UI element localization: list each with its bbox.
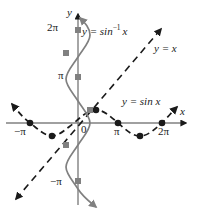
x-axis-label: x [180,106,185,117]
arcsin-curve-label: y = sin−1x [82,24,128,37]
arcsin-point [75,27,81,33]
y-axis-label: y [67,7,72,18]
y-tick-label-neg-pi: −π [50,176,62,187]
arcsin-label-prefix: y = sin [82,25,113,37]
arcsin-point [63,142,69,148]
arcsin-point [87,107,93,113]
x-tick-label-pi: π [114,126,120,137]
arcsin-point [75,74,81,80]
arcsin-point [75,178,81,184]
sine-curve-label: y = sin x [122,96,160,107]
math-figure: y x 0 2π π −π −π π 2π y = sin−1x y = x y… [0,0,198,219]
identity-line-y-equals-x [16,29,161,199]
y-tick-label-2pi: 2π [47,22,58,33]
arcsin-point [63,50,69,56]
sine-point [137,133,144,140]
arcsin-label-suffix: x [121,25,128,37]
x-tick-label-2pi: 2π [158,126,169,137]
arcsin-label-exponent: −1 [113,23,121,32]
identity-line-label: y = x [154,43,177,54]
sine-point [27,120,34,127]
x-tick-label-neg-pi: −π [14,126,26,137]
y-tick-label-pi: π [58,70,64,81]
origin-label: 0 [81,124,87,135]
sine-point [49,133,56,140]
sine-point [93,107,100,114]
